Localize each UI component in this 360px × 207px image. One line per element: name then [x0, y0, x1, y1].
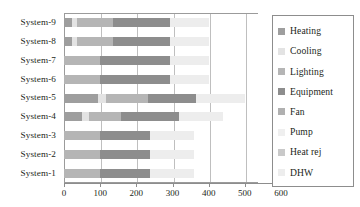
- legend-label: DHW: [290, 168, 313, 178]
- y-axis-label-system-4: System-4: [20, 112, 56, 121]
- bar-row: [64, 112, 223, 121]
- bar-segment-lighting: [64, 75, 100, 84]
- y-axis-label-system-1: System-1: [20, 169, 56, 178]
- y-axis-label-system-7: System-7: [20, 56, 56, 65]
- x-tick-label-600: 600: [274, 189, 288, 198]
- bar-segment-dhw: [170, 37, 209, 46]
- bar-segment-lighting: [77, 18, 113, 27]
- bar-segment-heating: [64, 112, 82, 121]
- bar-segment-dhw: [170, 18, 209, 27]
- bar-row: [64, 131, 194, 140]
- stacked-bar-chart: System-9System-8System-7System-6System-5…: [0, 0, 360, 207]
- legend-swatch-icon: [278, 149, 285, 156]
- legend-swatch-icon: [278, 108, 285, 115]
- legend-item-lighting[interactable]: Lighting: [278, 61, 353, 81]
- legend-item-fan[interactable]: Fan: [278, 102, 353, 122]
- bar-segment-dhw: [150, 169, 194, 178]
- y-axis-label-system-8: System-8: [20, 37, 56, 46]
- bar-segment-lighting: [77, 37, 113, 46]
- bar-segment-dhw: [170, 56, 209, 65]
- bar-segment-lighting: [64, 150, 100, 159]
- bar-row: [64, 37, 209, 46]
- bar-row: [64, 169, 194, 178]
- bar-segment-equipment: [121, 112, 179, 121]
- legend-item-equipment[interactable]: Equipment: [278, 82, 353, 102]
- legend-label: Heat rej: [290, 147, 321, 157]
- y-axis-label-system-3: System-3: [20, 131, 56, 140]
- legend-item-dhw[interactable]: DHW: [278, 162, 353, 182]
- bar-segment-equipment: [113, 18, 169, 27]
- bar-segment-equipment: [113, 37, 169, 46]
- bar-segment-dhw: [196, 94, 245, 103]
- bar-segment-lighting: [64, 169, 100, 178]
- y-axis-label-system-6: System-6: [20, 75, 56, 84]
- x-tick-0: [64, 184, 65, 187]
- x-tick-label-500: 500: [238, 189, 252, 198]
- bar-segment-heating: [64, 18, 72, 27]
- bar-row: [64, 18, 209, 27]
- x-tick-100: [100, 184, 101, 187]
- legend-swatch-icon: [278, 68, 285, 75]
- bar-segment-lighting: [64, 56, 100, 65]
- legend-item-cooling[interactable]: Cooling: [278, 41, 353, 61]
- legend-label: Equipment: [290, 87, 333, 97]
- x-tick-label-0: 0: [62, 189, 67, 198]
- y-axis-label-system-5: System-5: [20, 93, 56, 102]
- y-axis-label-system-9: System-9: [20, 18, 56, 27]
- bar-segment-equipment: [148, 94, 196, 103]
- bar-row: [64, 56, 209, 65]
- x-tick-400: [209, 184, 210, 187]
- legend-label: Cooling: [290, 46, 322, 56]
- bar-row: [64, 75, 209, 84]
- bar-segment-dhw: [150, 131, 194, 140]
- bar-segment-heating: [64, 37, 72, 46]
- legend-label: Fan: [290, 107, 305, 117]
- bar-segment-dhw: [179, 112, 223, 121]
- bar-segment-equipment: [100, 56, 169, 65]
- bar-segment-equipment: [100, 150, 150, 159]
- bar-segment-lighting: [89, 112, 122, 121]
- legend-label: Pump: [290, 127, 313, 137]
- bar-segment-dhw: [170, 75, 209, 84]
- legend-item-heat-rej[interactable]: Heat rej: [278, 142, 353, 162]
- bar-segment-equipment: [100, 75, 169, 84]
- legend-swatch-icon: [278, 129, 285, 136]
- bar-segment-dhw: [150, 150, 194, 159]
- legend-item-heating[interactable]: Heating: [278, 21, 353, 41]
- bars-layer: [64, 13, 258, 183]
- legend-swatch-icon: [278, 169, 285, 176]
- legend-swatch-icon: [278, 88, 285, 95]
- x-tick-500: [245, 184, 246, 187]
- x-tick-label-300: 300: [166, 189, 180, 198]
- bar-segment-cooling: [98, 94, 106, 103]
- legend-item-pump[interactable]: Pump: [278, 122, 353, 142]
- bar-row: [64, 94, 245, 103]
- x-tick-label-400: 400: [202, 189, 216, 198]
- bar-segment-equipment: [100, 169, 150, 178]
- legend-label: Lighting: [290, 67, 324, 77]
- bar-segment-heating: [64, 94, 98, 103]
- y-axis-label-system-2: System-2: [20, 150, 56, 159]
- x-tick-200: [136, 184, 137, 187]
- y-axis-labels: System-9System-8System-7System-6System-5…: [0, 13, 60, 183]
- bar-segment-lighting: [64, 131, 100, 140]
- bar-segment-lighting: [106, 94, 148, 103]
- legend-swatch-icon: [278, 48, 285, 55]
- x-tick-300: [173, 184, 174, 187]
- chart-legend: HeatingCoolingLightingEquipmentFanPumpHe…: [272, 15, 354, 187]
- legend-label: Heating: [290, 26, 321, 36]
- x-axis: 0100200300400500600: [64, 183, 300, 188]
- legend-swatch-icon: [278, 28, 285, 35]
- x-tick-label-100: 100: [93, 189, 107, 198]
- bar-row: [64, 150, 194, 159]
- x-tick-label-200: 200: [130, 189, 144, 198]
- bar-segment-equipment: [100, 131, 150, 140]
